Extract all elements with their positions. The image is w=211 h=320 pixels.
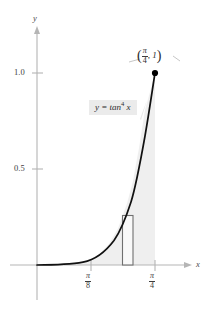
equation-exponent: 4: [121, 100, 124, 107]
close-paren: ): [157, 48, 162, 63]
y-axis-label: y: [33, 14, 37, 23]
marked-point: [152, 70, 158, 76]
y-tick-label-1-0: 1.0: [14, 68, 25, 77]
equation-label: y = tan4 x: [89, 100, 137, 115]
fraction-pi-8: π 8: [85, 272, 91, 291]
y-tick-label-0-5: 0.5: [14, 164, 25, 173]
marked-point-label: ( π 4 , 1): [137, 47, 161, 66]
y-axis: [34, 26, 40, 300]
x-tick-label-pi-over-8: π 8: [85, 272, 91, 291]
plot-canvas: [0, 0, 211, 320]
fraction-pi-4: π 4: [149, 272, 155, 291]
fraction-denominator: 4: [149, 282, 155, 291]
math-figure: y x 1.0 0.5 π 8 π 4 y = tan4 x ( π 4 , 1…: [0, 0, 211, 320]
equation-lhs: y = tan: [95, 102, 121, 112]
equation-rhs: x: [127, 102, 131, 112]
x-axis-label: x: [196, 260, 200, 269]
point-separator: ,: [148, 50, 150, 60]
x-tick-label-pi-over-4: π 4: [149, 272, 155, 291]
fraction-denominator: 8: [85, 282, 91, 291]
